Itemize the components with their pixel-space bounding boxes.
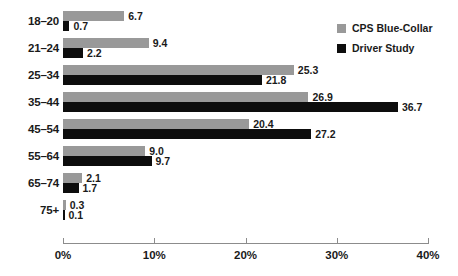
bar-group: 6.70.7: [63, 11, 124, 31]
bar-group: 25.321.8: [63, 65, 294, 85]
bar-cps-blue-collar: 0.3: [63, 200, 66, 210]
legend-item-driver-study: Driver Study: [337, 40, 433, 56]
category-label: 55–64: [0, 150, 59, 162]
legend-label-driver-study: Driver Study: [352, 42, 414, 54]
bar-cps-blue-collar: 2.1: [63, 173, 82, 183]
x-axis-tick: [428, 238, 429, 244]
bar-value-label: 9.7: [156, 155, 171, 167]
chart-row: 75+0.30.1: [0, 200, 458, 227]
bar-cps-blue-collar: 6.7: [63, 11, 124, 21]
x-axis-tick: [337, 238, 338, 244]
bar-value-label: 27.2: [315, 128, 335, 140]
x-axis-tick-label: 10%: [143, 249, 166, 261]
bar-cps-blue-collar: 25.3: [63, 65, 294, 75]
category-label: 45–54: [0, 123, 59, 135]
category-label: 65–74: [0, 177, 59, 189]
age-distribution-bar-chart: 18–206.70.721–249.42.225–3425.321.835–44…: [0, 0, 458, 276]
bar-driver-study: 36.7: [63, 102, 398, 112]
x-axis-tick: [154, 238, 155, 244]
bar-value-label: 6.7: [128, 10, 143, 22]
bar-cps-blue-collar: 26.9: [63, 92, 308, 102]
bar-value-label: 2.2: [87, 47, 102, 59]
bar-value-label: 9.4: [153, 37, 168, 49]
bar-driver-study: 9.7: [63, 156, 152, 166]
x-axis-tick-label: 20%: [234, 249, 257, 261]
legend-swatch-icon-driver-study: [337, 44, 346, 53]
bar-driver-study: 1.7: [63, 183, 79, 193]
bar-driver-study: 0.1: [63, 210, 65, 220]
bar-group: 0.30.1: [63, 200, 66, 220]
x-axis-tick-label: 40%: [416, 249, 439, 261]
category-label: 75+: [0, 204, 59, 216]
legend-item-cps-blue-collar: CPS Blue-Collar: [337, 20, 433, 36]
bar-value-label: 21.8: [266, 74, 286, 86]
bar-driver-study: 21.8: [63, 75, 262, 85]
legend-label-cps-blue-collar: CPS Blue-Collar: [352, 22, 433, 34]
chart-row: 25–3425.321.8: [0, 65, 458, 92]
bar-group: 20.427.2: [63, 119, 311, 139]
bar-driver-study: 0.7: [63, 21, 69, 31]
x-axis-tick: [63, 238, 64, 244]
chart-row: 55–649.09.7: [0, 146, 458, 173]
bar-driver-study: 2.2: [63, 48, 83, 58]
chart-legend: CPS Blue-Collar Driver Study: [337, 20, 433, 60]
x-axis-tick: [246, 238, 247, 244]
category-label: 35–44: [0, 96, 59, 108]
bar-value-label: 0.1: [69, 209, 84, 221]
chart-row: 35–4426.936.7: [0, 92, 458, 119]
bar-driver-study: 27.2: [63, 129, 311, 139]
legend-swatch-icon-cps-blue-collar: [337, 24, 346, 33]
bar-group: 9.42.2: [63, 38, 149, 58]
x-axis-tick-label: 0%: [55, 249, 72, 261]
bar-group: 26.936.7: [63, 92, 398, 112]
chart-row: 45–5420.427.2: [0, 119, 458, 146]
chart-row: 65–742.11.7: [0, 173, 458, 200]
bar-cps-blue-collar: 20.4: [63, 119, 249, 129]
bar-value-label: 0.7: [73, 20, 88, 32]
category-label: 25–34: [0, 69, 59, 81]
bar-value-label: 25.3: [298, 64, 318, 76]
category-label: 18–20: [0, 15, 59, 27]
bar-value-label: 36.7: [402, 101, 422, 113]
bar-cps-blue-collar: 9.4: [63, 38, 149, 48]
bar-value-label: 1.7: [83, 182, 98, 194]
category-label: 21–24: [0, 42, 59, 54]
bar-cps-blue-collar: 9.0: [63, 146, 145, 156]
bar-group: 2.11.7: [63, 173, 82, 193]
x-axis-tick-label: 30%: [325, 249, 348, 261]
bar-group: 9.09.7: [63, 146, 152, 166]
